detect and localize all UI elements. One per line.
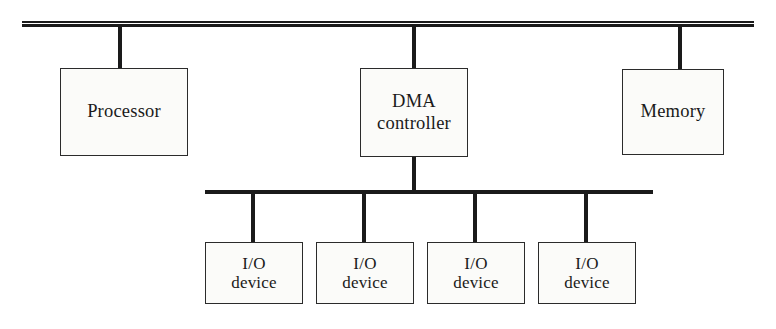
node-label-dma-controller: DMA controller <box>377 91 451 133</box>
node-label-processor: Processor <box>87 101 161 122</box>
dma-block-diagram: ProcessorDMA controllerMemoryI/O deviceI… <box>0 0 776 329</box>
node-io-device-1: I/O device <box>205 242 303 304</box>
node-label-io-device-1: I/O device <box>231 254 277 293</box>
node-label-memory: Memory <box>641 101 706 122</box>
node-processor: Processor <box>60 68 188 156</box>
node-io-device-3: I/O device <box>427 242 525 304</box>
node-label-io-device-2: I/O device <box>342 254 388 293</box>
node-io-device-4: I/O device <box>538 242 636 304</box>
node-io-device-2: I/O device <box>316 242 414 304</box>
node-label-io-device-4: I/O device <box>564 254 610 293</box>
node-memory: Memory <box>622 69 724 155</box>
node-dma-controller: DMA controller <box>360 68 468 157</box>
node-label-io-device-3: I/O device <box>453 254 499 293</box>
